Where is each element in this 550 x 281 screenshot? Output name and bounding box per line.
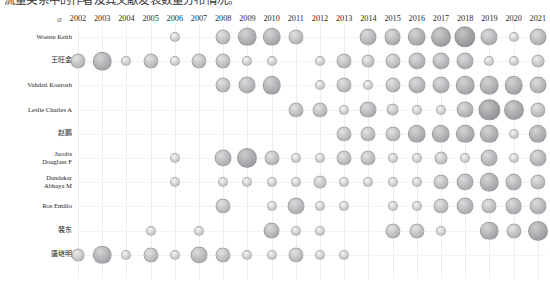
bubble-marker[interactable] [433,53,450,70]
bubble-marker[interactable] [361,150,376,165]
bubble-marker[interactable] [529,125,547,143]
bubble-marker[interactable] [216,247,231,262]
bubble-marker[interactable] [70,54,85,69]
bubble-marker[interactable] [263,222,280,239]
bubble-marker[interactable] [337,126,352,141]
bubble-marker[interactable] [363,80,373,90]
bubble-marker[interactable] [267,177,277,187]
bubble-marker[interactable] [315,201,325,211]
bubble-marker[interactable] [339,105,349,115]
bubble-marker[interactable] [457,53,474,70]
bubble-marker[interactable] [291,226,301,236]
bubble-marker[interactable] [218,177,228,187]
bubble-marker[interactable] [312,102,327,117]
bubble-marker[interactable] [457,198,474,215]
bubble-marker[interactable] [509,32,519,42]
bubble-marker[interactable] [121,56,131,66]
bubble-marker[interactable] [456,76,474,94]
bubble-marker[interactable] [480,221,498,239]
bubble-marker[interactable] [388,201,398,211]
bubble-marker[interactable] [481,150,498,167]
bubble-marker[interactable] [408,28,426,46]
bubble-marker[interactable] [288,102,303,117]
bubble-marker[interactable] [384,29,401,46]
bubble-marker[interactable] [170,250,180,260]
bubble-marker[interactable] [505,174,522,191]
bubble-marker[interactable] [216,54,231,69]
bubble-marker[interactable] [408,53,425,70]
bubble-marker[interactable] [436,226,446,236]
bubble-marker[interactable] [191,54,206,69]
bubble-marker[interactable] [287,198,304,215]
bubble-marker[interactable] [433,199,448,214]
bubble-marker[interactable] [360,101,377,118]
bubble-marker[interactable] [481,29,498,46]
bubble-marker[interactable] [504,76,522,94]
bubble-marker[interactable] [456,125,474,143]
bubble-marker[interactable] [267,201,277,211]
bubble-marker[interactable] [480,76,498,94]
bubble-marker[interactable] [72,248,85,261]
bubble-marker[interactable] [385,78,400,93]
bubble-marker[interactable] [216,29,231,44]
bubble-marker[interactable] [363,177,373,187]
bubble-marker[interactable] [362,55,375,68]
bubble-marker[interactable] [216,78,231,93]
bubble-marker[interactable] [530,102,545,117]
bubble-marker[interactable] [504,100,524,120]
bubble-marker[interactable] [412,201,422,211]
bubble-marker[interactable] [194,226,204,236]
bubble-marker[interactable] [460,153,470,163]
bubble-marker[interactable] [457,174,474,191]
bubble-marker[interactable] [315,56,325,66]
bubble-marker[interactable] [242,177,252,187]
bubble-marker[interactable] [412,153,422,163]
bubble-marker[interactable] [170,32,180,42]
bubble-marker[interactable] [360,29,377,46]
bubble-marker[interactable] [505,198,522,215]
bubble-marker[interactable] [238,28,256,46]
bubble-marker[interactable] [242,250,252,260]
bubble-marker[interactable] [412,177,422,187]
bubble-marker[interactable] [433,175,448,190]
bubble-marker[interactable] [262,76,280,94]
bubble-marker[interactable] [237,148,257,168]
bubble-marker[interactable] [484,56,494,66]
bubble-marker[interactable] [339,201,349,211]
bubble-marker[interactable] [455,26,476,47]
bubble-marker[interactable] [264,150,279,165]
bubble-marker[interactable] [242,56,252,66]
bubble-marker[interactable] [170,56,180,66]
bubble-marker[interactable] [385,126,400,141]
bubble-marker[interactable] [408,77,425,94]
bubble-marker[interactable] [143,247,158,262]
bubble-marker[interactable] [143,54,158,69]
bubble-marker[interactable] [529,198,546,215]
bubble-marker[interactable] [216,199,231,214]
bubble-marker[interactable] [337,150,352,165]
bubble-marker[interactable] [457,101,474,118]
bubble-marker[interactable] [315,226,325,236]
bubble-marker[interactable] [408,125,426,143]
bubble-marker[interactable] [315,153,325,163]
bubble-marker[interactable] [436,105,446,115]
bubble-marker[interactable] [509,153,519,163]
bubble-marker[interactable] [531,55,544,68]
bubble-marker[interactable] [388,153,398,163]
bubble-marker[interactable] [315,80,325,90]
bubble-marker[interactable] [480,125,498,143]
bubble-marker[interactable] [433,77,450,94]
bubble-marker[interactable] [337,78,352,93]
bubble-marker[interactable] [191,246,208,263]
bubble-marker[interactable] [361,126,376,141]
bubble-marker[interactable] [291,153,301,163]
bubble-marker[interactable] [412,105,422,115]
bubble-marker[interactable] [239,77,256,94]
bubble-marker[interactable] [480,173,498,191]
bubble-marker[interactable] [170,177,180,187]
bubble-marker[interactable] [435,152,448,165]
bubble-marker[interactable] [339,250,349,260]
bubble-marker[interactable] [288,247,303,262]
bubble-marker[interactable] [315,250,325,260]
bubble-marker[interactable] [146,226,156,236]
